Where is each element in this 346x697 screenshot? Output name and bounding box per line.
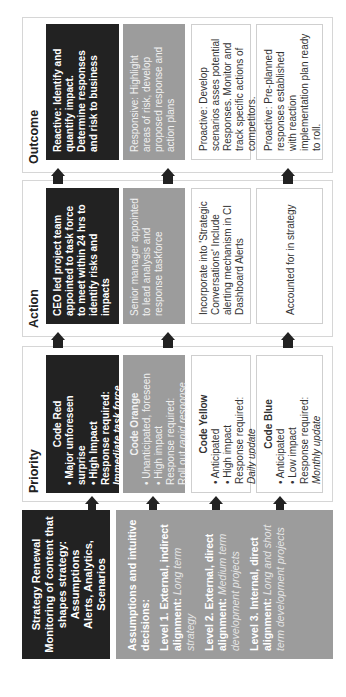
priority-section: Priority Code Red Major unforeseen surpr… (22, 346, 333, 502)
response-label: Response required: (299, 364, 311, 484)
code-label: Code Yellow (198, 364, 210, 484)
outcome-row-2: Responsive: Highlight areas of risk, dev… (123, 24, 185, 160)
response-label: Response required: (165, 363, 177, 485)
strategy-line: Strategy Renewal (30, 516, 43, 653)
bullet: Unanticipated, foreseen (141, 363, 153, 485)
bullet: High Impact (88, 363, 100, 485)
bullet: Anticipated (210, 364, 222, 484)
code-blue-box: Code Blue Anticipated Low impact Respons… (256, 355, 323, 493)
action-row-4: Accounted for in strategy (256, 188, 323, 324)
outcome-row-4: Proactive: Pre-planned responses establi… (256, 24, 323, 160)
strategy-line: Alerts, Analytics, (82, 516, 95, 653)
level-3: Level 3. Internal, direct alignment: Lon… (248, 518, 287, 651)
action-row-3: Incorporate into 'Strategic Conversation… (191, 188, 251, 324)
outcome-row-1: Reactive: Identify and quantify impact. … (46, 24, 119, 160)
code-label: Code Blue (263, 364, 275, 484)
assumptions-box: Assumptions and intuitive decisions: Lev… (116, 510, 333, 659)
strategy-line: Assumptions (69, 516, 82, 653)
code-label: Code Orange (129, 363, 141, 485)
bullet: Major unforeseen surprise (64, 363, 88, 485)
priority-title: Priority (27, 449, 41, 493)
strategy-line: Scenarios (95, 516, 108, 653)
action-row-1: CEO led project team appointed to task f… (46, 188, 119, 324)
bullet: High impact (153, 363, 165, 485)
bullet: Anticipated (275, 364, 287, 484)
code-red-box: Code Red Major unforeseen surprise High … (46, 355, 119, 493)
response-prefix: Roll out (177, 448, 188, 485)
outcome-title: Outcome (27, 110, 41, 164)
bullet: High impact (222, 364, 234, 484)
strategy-line: Monitoring of content that shapes strate… (43, 516, 69, 653)
action-row-2: Senior manager appointed to lead analysi… (123, 188, 185, 324)
action-title: Action (27, 289, 41, 328)
code-orange-box: Code Orange Unanticipated, foreseen High… (123, 355, 185, 493)
response-label: Response required: (100, 363, 112, 485)
response-label: Response required: (234, 364, 246, 484)
bullet: Low impact (287, 364, 299, 484)
response-value: Monthly update (311, 416, 322, 484)
code-yellow-box: Code Yellow Anticipated High impact Resp… (191, 355, 251, 493)
strategy-response-diagram: Strategy Renewal Monitoring of content t… (0, 0, 346, 697)
strategy-renewal-box: Strategy Renewal Monitoring of content t… (22, 510, 110, 659)
level-2: Level 2. External, direct alignment: Med… (203, 518, 242, 651)
assumptions-heading: Assumptions and intuitive decisions: (126, 518, 152, 651)
response-value: Immediate task force (112, 386, 123, 486)
outcome-row-3: Proactive: Develop scenarios asses poten… (191, 24, 251, 160)
response-value: rapid response (177, 382, 188, 448)
code-label: Code Red (52, 363, 64, 485)
outcome-section: Outcome Reactive: Identify and quantify … (22, 17, 333, 173)
action-section: Action CEO led project team appointed to… (22, 180, 333, 337)
level-1: Level 1. External, indirect alignment: L… (158, 518, 197, 651)
